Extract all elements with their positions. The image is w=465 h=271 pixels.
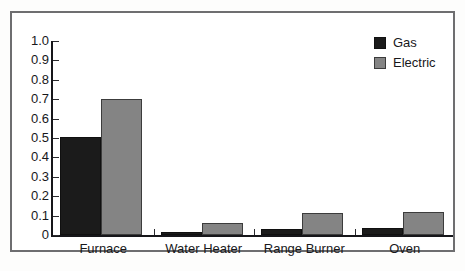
y-tick-mark: [53, 80, 59, 81]
x-axis-line: [51, 235, 453, 237]
y-tick-mark: [53, 196, 59, 197]
legend-item-gas: Gas: [374, 34, 460, 51]
figure-root: 1.00.90.80.70.60.50.40.30.20.10 FurnaceW…: [0, 0, 465, 271]
y-tick-mark: [53, 138, 59, 139]
caption-partial-text: [14, 260, 314, 271]
bar-gas: [60, 137, 101, 235]
y-tick-label: 1.0: [15, 34, 49, 47]
bar-electric: [202, 223, 243, 235]
y-tick-mark: [53, 99, 59, 100]
chart-legend: Gas Electric: [374, 34, 460, 74]
y-tick-label: 0.4: [15, 150, 49, 163]
legend-item-electric: Electric: [374, 54, 460, 71]
bar-electric: [101, 99, 142, 235]
bar-electric: [403, 212, 444, 235]
y-tick-label: 0.5: [15, 131, 49, 144]
y-axis-tick-labels: 1.00.90.80.70.60.50.40.30.20.10: [12, 13, 49, 271]
y-tick-mark: [53, 60, 59, 61]
y-tick-label: 0.3: [15, 170, 49, 183]
y-tick-label: 0.8: [15, 73, 49, 86]
y-tick-label: 0.1: [15, 209, 49, 222]
category-label: Oven: [343, 242, 465, 256]
y-tick-label: 0.9: [15, 53, 49, 66]
y-axis-line: [51, 41, 53, 237]
y-tick-mark: [53, 119, 59, 120]
legend-swatch-gas-icon: [374, 37, 386, 49]
y-tick-mark: [53, 157, 59, 158]
y-tick-label: 0.6: [15, 112, 49, 125]
x-tick-mark: [254, 229, 255, 235]
y-tick-mark: [53, 216, 59, 217]
chart-frame: 1.00.90.80.70.60.50.40.30.20.10 FurnaceW…: [10, 11, 455, 252]
bar-gas: [161, 232, 202, 235]
legend-label-gas: Gas: [393, 36, 417, 49]
y-tick-mark: [53, 41, 59, 42]
y-tick-mark: [53, 177, 59, 178]
legend-label-electric: Electric: [393, 56, 436, 69]
x-tick-mark: [154, 229, 155, 235]
y-tick-label: 0.7: [15, 92, 49, 105]
y-tick-label: 0.2: [15, 189, 49, 202]
y-tick-mark: [53, 235, 59, 236]
bar-gas: [362, 228, 403, 235]
bar-electric: [302, 213, 343, 235]
x-tick-mark: [355, 229, 356, 235]
y-tick-label: 0: [15, 228, 49, 241]
legend-swatch-electric-icon: [374, 57, 386, 69]
bar-gas: [261, 229, 302, 235]
